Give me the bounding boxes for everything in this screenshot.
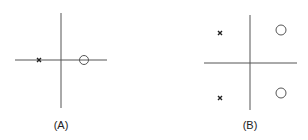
zero-circle-icon — [276, 25, 286, 35]
panel-a-label: (A) — [54, 119, 69, 131]
panel-b-label: (B) — [243, 119, 258, 131]
pole-zero-diagrams — [0, 0, 308, 140]
pole-x-icon — [218, 31, 222, 35]
pole-x-icon — [218, 96, 222, 100]
zero-circle-icon — [276, 88, 286, 98]
